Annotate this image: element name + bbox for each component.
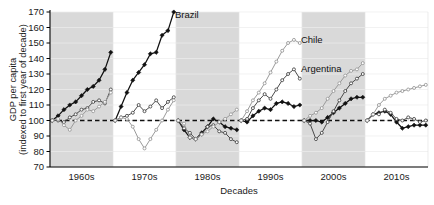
datapoint-argentina: [143, 110, 146, 113]
y-axis-title-line2: (indexed to first year of decade): [18, 24, 28, 155]
x-tick-label-1990s: 1990s: [258, 171, 284, 182]
datapoint-argentina: [269, 97, 272, 100]
datapoint-chile: [287, 42, 290, 45]
datapoint-argentina: [235, 141, 238, 144]
x-tick-label-2000s: 2000s: [321, 171, 347, 182]
datapoint-argentina: [109, 88, 112, 91]
datapoint-argentina: [68, 116, 71, 119]
datapoint-argentina: [320, 131, 323, 134]
datapoint-chile: [263, 82, 266, 85]
y-tick-label-150: 150: [28, 37, 44, 48]
datapoint-argentina: [292, 68, 295, 71]
datapoint-argentina: [287, 73, 290, 76]
datapoint-chile: [309, 114, 312, 117]
datapoint-argentina: [413, 117, 416, 120]
datapoint-chile: [125, 117, 128, 120]
datapoint-chile: [114, 119, 117, 122]
datapoint-argentina: [166, 100, 169, 103]
datapoint-chile: [332, 90, 335, 93]
datapoint-argentina: [246, 117, 249, 120]
datapoint-chile: [303, 119, 306, 122]
datapoint-chile: [92, 110, 95, 113]
datapoint-argentina: [350, 82, 353, 85]
datapoint-argentina: [275, 88, 278, 91]
datapoint-chile: [86, 108, 89, 111]
datapoint-chile: [200, 133, 203, 136]
datapoint-brazil: [406, 125, 410, 129]
datapoint-argentina: [131, 111, 134, 114]
datapoint-chile: [68, 128, 71, 131]
datapoint-brazil: [125, 91, 129, 95]
datapoint-chile: [292, 38, 295, 41]
datapoint-argentina: [298, 77, 301, 80]
series-annotation-brazil: Brazil: [175, 9, 199, 20]
datapoint-argentina: [309, 122, 312, 125]
datapoint-brazil: [424, 123, 428, 127]
series-line-chile-1970s: [115, 100, 174, 148]
gdp-per-capita-line-chart: 7080901001101201301401501601701960s1970s…: [0, 0, 434, 205]
datapoint-chile: [377, 104, 380, 107]
datapoint-chile: [350, 69, 353, 72]
datapoint-chile: [137, 138, 140, 141]
datapoint-chile: [188, 136, 191, 139]
y-tick-label-110: 110: [29, 99, 44, 110]
datapoint-chile: [407, 88, 410, 91]
chart-container: 7080901001101201301401501601701960s1970s…: [0, 0, 434, 205]
datapoint-argentina: [224, 131, 227, 134]
datapoint-chile: [326, 97, 329, 100]
datapoint-argentina: [424, 119, 427, 122]
x-axis-title: Decades: [220, 185, 258, 196]
datapoint-chile: [183, 122, 186, 125]
datapoint-chile: [149, 138, 152, 141]
datapoint-chile: [155, 128, 158, 131]
datapoint-argentina: [125, 114, 128, 117]
datapoint-chile: [62, 124, 65, 127]
datapoint-chile: [103, 100, 106, 103]
datapoint-argentina: [389, 111, 392, 114]
datapoint-brazil: [154, 50, 158, 54]
datapoint-chile: [338, 82, 341, 85]
datapoint-chile: [166, 108, 169, 111]
datapoint-chile: [218, 121, 221, 124]
datapoint-chile: [240, 119, 243, 122]
datapoint-chile: [224, 117, 227, 120]
datapoint-argentina: [361, 73, 364, 76]
datapoint-argentina: [229, 138, 232, 141]
datapoint-chile: [355, 68, 358, 71]
datapoint-argentina: [161, 107, 164, 110]
series-line-chile-2010s: [367, 85, 426, 121]
series-annotation-argentina: Argentina: [301, 63, 342, 74]
datapoint-chile: [98, 105, 101, 108]
y-tick-label-160: 160: [28, 22, 44, 33]
datapoint-argentina: [407, 116, 410, 119]
datapoint-chile: [212, 125, 215, 128]
y-tick-label-140: 140: [28, 53, 44, 64]
datapoint-argentina: [98, 99, 101, 102]
x-tick-label-1980s: 1980s: [195, 171, 221, 182]
datapoint-brazil: [280, 100, 284, 104]
y-tick-label-120: 120: [28, 84, 44, 95]
datapoint-argentina: [206, 125, 209, 128]
datapoint-argentina: [155, 99, 158, 102]
datapoint-chile: [372, 113, 375, 116]
datapoint-chile: [320, 107, 323, 110]
x-tick-label-2010s: 2010s: [384, 171, 410, 182]
datapoint-chile: [361, 62, 364, 65]
datapoint-chile: [246, 110, 249, 113]
datapoint-chile: [344, 74, 347, 77]
datapoint-brazil: [412, 123, 416, 127]
datapoint-argentina: [326, 121, 329, 124]
datapoint-argentina: [377, 113, 380, 116]
datapoint-argentina: [332, 110, 335, 113]
datapoint-argentina: [395, 117, 398, 120]
datapoint-argentina: [149, 105, 152, 108]
y-tick-label-80: 80: [33, 146, 44, 157]
datapoint-chile: [413, 86, 416, 89]
datapoint-chile: [251, 99, 254, 102]
datapoint-chile: [194, 138, 197, 141]
datapoint-chile: [257, 91, 260, 94]
x-tick-label-1960s: 1960s: [69, 171, 95, 182]
datapoint-chile: [51, 119, 54, 122]
datapoint-brazil: [298, 103, 302, 107]
datapoint-chile: [143, 147, 146, 150]
